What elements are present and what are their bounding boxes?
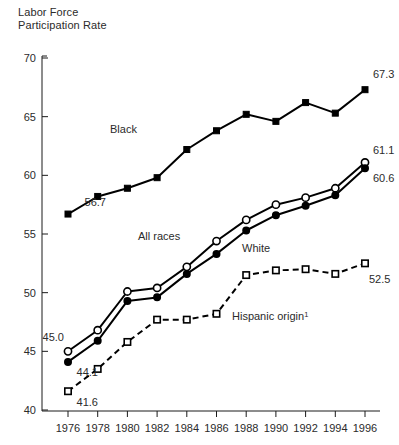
series-label-black: Black (110, 123, 137, 135)
series-marker-white (332, 192, 338, 198)
series-marker-white (213, 251, 219, 257)
series-marker-hispanic-origin (154, 316, 160, 322)
series-line-hispanic-origin (68, 263, 365, 391)
series-marker-hispanic-origin (184, 316, 190, 322)
series-marker-black (184, 147, 190, 153)
series-marker-black (214, 128, 220, 134)
y-tick-label: 50 (24, 287, 36, 299)
series-marker-all-races (272, 201, 279, 208)
series-marker-hispanic-origin (124, 339, 130, 345)
y-tick-label: 60 (24, 169, 36, 181)
x-tick-label: 1994 (323, 422, 347, 434)
y-tick-label: 70 (24, 52, 36, 64)
series-line-white (68, 168, 365, 362)
series-marker-all-races (332, 185, 339, 192)
series-marker-white (154, 294, 160, 300)
value-label-hispanic-origin-last: 52.5 (369, 273, 390, 285)
series-marker-white (302, 203, 308, 209)
x-tick-label: 1988 (234, 422, 258, 434)
value-label-white-first: 44.1 (77, 366, 98, 378)
y-tick-label: 40 (24, 404, 36, 416)
series-marker-black (332, 110, 338, 116)
value-label-all-races-first: 45.0 (43, 331, 64, 343)
series-marker-all-races (94, 327, 101, 334)
series-marker-white (243, 227, 249, 233)
value-label-black-first: 56.7 (85, 196, 106, 208)
x-tick-label: 1990 (264, 422, 288, 434)
series-marker-all-races (64, 348, 71, 355)
chart-series-labels: BlackAll racesWhiteHispanic origin1 (110, 123, 308, 322)
x-tick-label: 1986 (204, 422, 228, 434)
x-tick-label: 1978 (85, 422, 109, 434)
value-label-black-last: 67.3 (373, 68, 394, 80)
series-marker-black (154, 175, 160, 181)
series-marker-black (303, 100, 309, 106)
x-axis-ticks: 1976197819801982198419861988199019921994… (56, 411, 377, 434)
x-tick-label: 1996 (353, 422, 377, 434)
y-axis-ticks: 70656055504540 (24, 52, 48, 416)
series-marker-hispanic-origin (273, 267, 279, 273)
series-marker-hispanic-origin (302, 266, 308, 272)
x-tick-label: 1980 (115, 422, 139, 434)
series-marker-hispanic-origin (362, 260, 368, 266)
series-marker-all-races (243, 216, 250, 223)
y-tick-label: 65 (24, 111, 36, 123)
series-label-all-races: All races (138, 230, 181, 242)
series-marker-white (124, 298, 130, 304)
series-label-superscript-hispanic-origin: 1 (304, 310, 308, 319)
series-marker-hispanic-origin (213, 311, 219, 317)
series-marker-hispanic-origin (332, 271, 338, 277)
series-marker-all-races (183, 263, 190, 270)
series-marker-black (362, 87, 368, 93)
x-tick-label: 1976 (56, 422, 80, 434)
series-line-black (68, 90, 365, 214)
chart-axes (42, 56, 380, 411)
series-marker-white (362, 165, 368, 171)
y-tick-label: 45 (24, 345, 36, 357)
series-marker-white (273, 212, 279, 218)
line-chart-plot: 70656055504540 1976197819801982198419861… (0, 0, 399, 445)
series-marker-hispanic-origin (65, 388, 71, 394)
series-marker-hispanic-origin (243, 272, 249, 278)
value-label-white-last: 60.6 (373, 172, 394, 184)
value-label-hispanic-origin-first: 41.6 (77, 396, 98, 408)
series-marker-black (124, 185, 130, 191)
series-marker-black (65, 211, 71, 217)
series-marker-white (184, 271, 190, 277)
series-label-hispanic-origin: Hispanic origin1 (232, 310, 308, 323)
series-marker-white (95, 338, 101, 344)
x-tick-label: 1992 (293, 422, 317, 434)
series-marker-all-races (302, 194, 309, 201)
series-marker-black (243, 111, 249, 117)
value-label-all-races-last: 61.1 (373, 144, 394, 156)
y-tick-label: 55 (24, 228, 36, 240)
series-marker-white (65, 359, 71, 365)
series-marker-all-races (154, 284, 161, 291)
x-tick-label: 1984 (175, 422, 199, 434)
series-marker-all-races (213, 237, 220, 244)
chart-container: Labor ForceParticipation Rate 7065605550… (0, 0, 399, 445)
x-tick-label: 1982 (145, 422, 169, 434)
series-label-white: White (242, 242, 270, 254)
series-marker-black (273, 118, 279, 124)
series-marker-all-races (124, 288, 131, 295)
